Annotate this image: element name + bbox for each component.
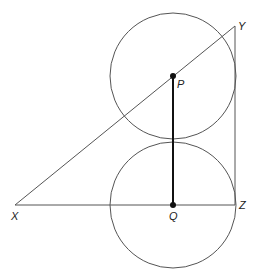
geometry-diagram: P Q X Y Z <box>0 0 260 280</box>
label-y: Y <box>238 20 246 32</box>
point-q-dot <box>170 202 176 208</box>
point-p-dot <box>170 73 176 79</box>
label-p: P <box>177 78 185 90</box>
label-z: Z <box>238 199 247 211</box>
label-q: Q <box>169 210 178 222</box>
label-x: X <box>10 210 19 222</box>
segment-xy <box>15 26 235 205</box>
